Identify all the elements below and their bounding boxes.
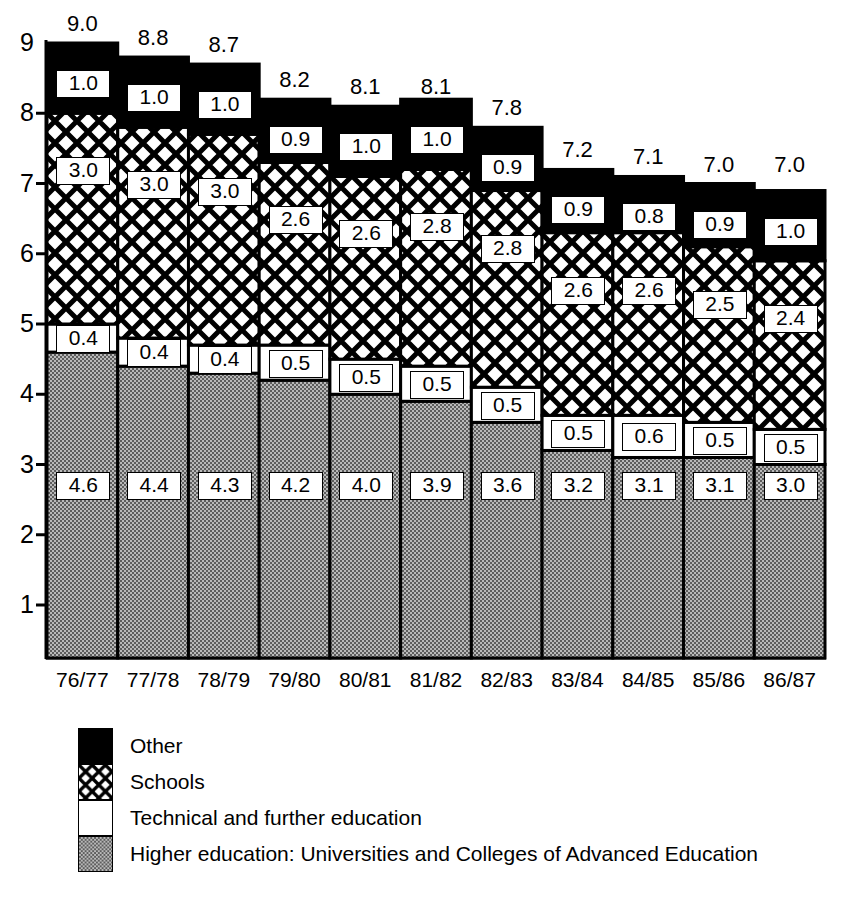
x-axis-tick-label: 82/83 <box>471 668 542 692</box>
segment-value-label: 0.5 <box>551 420 605 448</box>
segment-value-label: 4.3 <box>198 472 252 500</box>
legend-label: Higher education: Universities and Colle… <box>130 841 758 867</box>
segment-value-label: 3.1 <box>622 472 676 500</box>
segment-value-label: 0.5 <box>693 427 747 455</box>
segment-value-label: 0.5 <box>764 434 818 462</box>
bar-total-label: 8.1 <box>401 76 472 98</box>
plot-area: 123456789 76/7777/7878/7979/8080/8181/82… <box>0 0 849 700</box>
legend-swatch-white-icon <box>78 800 113 836</box>
x-axis-tick-label: 78/79 <box>188 668 259 692</box>
bar-segment <box>401 401 472 658</box>
legend-swatch-crosshatch-icon <box>78 764 113 800</box>
x-axis-tick-label: 83/84 <box>542 668 613 692</box>
legend-swatch-black-icon <box>78 728 113 764</box>
segment-value-label: 0.9 <box>693 211 747 239</box>
segment-value-label: 1.0 <box>56 70 110 98</box>
x-axis-tick-label: 81/82 <box>401 668 472 692</box>
segment-value-label: 1.0 <box>198 91 252 119</box>
x-axis-tick-label: 84/85 <box>613 668 684 692</box>
segment-value-label: 2.6 <box>622 277 676 305</box>
y-axis-tick-label: 4 <box>6 381 34 406</box>
bar-segment <box>542 233 613 416</box>
bar-segment <box>118 127 189 338</box>
y-axis-tick-label: 7 <box>6 171 34 196</box>
legend-swatch-grey-stipple-icon <box>78 836 113 872</box>
bar-segment <box>47 352 118 658</box>
segment-value-label: 4.2 <box>269 472 323 500</box>
bar-total-label: 7.1 <box>613 146 684 168</box>
bar-total-label: 8.7 <box>188 34 259 56</box>
segment-value-label: 3.0 <box>198 178 252 206</box>
segment-value-label: 0.8 <box>622 203 676 231</box>
bar-segment <box>401 169 472 366</box>
segment-value-label: 3.0 <box>764 472 818 500</box>
segment-value-label: 2.5 <box>693 291 747 319</box>
y-axis-tick-label: 8 <box>6 100 34 125</box>
y-axis-tick-label: 3 <box>6 452 34 477</box>
bar-total-label: 7.2 <box>542 139 613 161</box>
bar-segment <box>118 366 189 658</box>
segment-value-label: 3.6 <box>481 472 535 500</box>
bar-segment <box>47 113 118 324</box>
segment-value-label: 3.0 <box>127 171 181 199</box>
legend-item: Higher education: Universities and Colle… <box>78 836 838 872</box>
segment-value-label: 0.4 <box>56 325 110 353</box>
segment-value-label: 2.6 <box>551 277 605 305</box>
bar-segment <box>613 233 684 416</box>
bar-total-label: 9.0 <box>47 13 118 35</box>
segment-value-label: 4.0 <box>339 472 393 500</box>
bar-segment <box>471 422 542 658</box>
segment-value-label: 0.5 <box>269 350 323 378</box>
bar-total-label: 7.8 <box>471 97 542 119</box>
y-axis-tick-label: 6 <box>6 241 34 266</box>
segment-value-label: 3.9 <box>410 472 464 500</box>
segment-value-label: 0.4 <box>127 339 181 367</box>
bar-segment <box>188 373 259 658</box>
bar-segment <box>259 380 330 658</box>
y-axis-tick-label: 5 <box>6 311 34 336</box>
y-axis-tick-label: 9 <box>6 30 34 55</box>
chart-legend: OtherSchoolsTechnical and further educat… <box>78 728 838 872</box>
segment-value-label: 0.5 <box>339 364 393 392</box>
y-axis-tick-label: 2 <box>6 522 34 547</box>
bar-segment <box>330 394 401 658</box>
segment-value-label: 0.5 <box>410 371 464 399</box>
legend-label: Other <box>130 733 183 759</box>
bar-total-label: 7.0 <box>754 154 825 176</box>
segment-value-label: 3.1 <box>693 472 747 500</box>
segment-value-label: 3.2 <box>551 472 605 500</box>
segment-value-label: 0.9 <box>551 196 605 224</box>
segment-value-label: 0.4 <box>198 346 252 374</box>
segment-value-label: 4.6 <box>56 472 110 500</box>
legend-label: Technical and further education <box>130 805 422 831</box>
y-axis-tick-label: 1 <box>6 592 34 617</box>
legend-item: Schools <box>78 764 838 800</box>
x-axis-tick-label: 86/87 <box>754 668 825 692</box>
bar-segment <box>188 134 259 345</box>
segment-value-label: 2.6 <box>339 220 393 248</box>
x-axis-tick-label: 77/78 <box>118 668 189 692</box>
bar-total-label: 8.2 <box>259 69 330 91</box>
bar-total-label: 8.8 <box>118 27 189 49</box>
bar-total-label: 8.1 <box>330 76 401 98</box>
segment-value-label: 3.0 <box>56 157 110 185</box>
x-axis-tick-label: 85/86 <box>684 668 755 692</box>
x-axis-tick-label: 79/80 <box>259 668 330 692</box>
segment-value-label: 2.8 <box>481 235 535 263</box>
segment-value-label: 2.8 <box>410 213 464 241</box>
segment-value-label: 2.4 <box>764 305 818 333</box>
segment-value-label: 4.4 <box>127 472 181 500</box>
segment-value-label: 0.9 <box>269 126 323 154</box>
bar-segment <box>471 191 542 388</box>
segment-value-label: 0.6 <box>622 423 676 451</box>
segment-value-label: 1.0 <box>410 126 464 154</box>
stacked-bar-chart: 123456789 76/7777/7878/7979/8080/8181/82… <box>0 0 849 921</box>
segment-value-label: 0.9 <box>481 154 535 182</box>
bar-segment <box>754 261 825 430</box>
bar-segment <box>684 247 755 423</box>
legend-item: Technical and further education <box>78 800 838 836</box>
legend-label: Schools <box>130 769 205 795</box>
x-axis-tick-label: 76/77 <box>47 668 118 692</box>
segment-value-label: 0.5 <box>481 392 535 420</box>
bar-segment <box>259 162 330 345</box>
